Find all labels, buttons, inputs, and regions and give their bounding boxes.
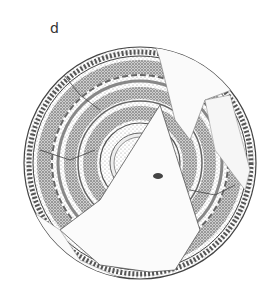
dish-drawing	[0, 0, 272, 283]
stain-mark	[153, 173, 163, 179]
